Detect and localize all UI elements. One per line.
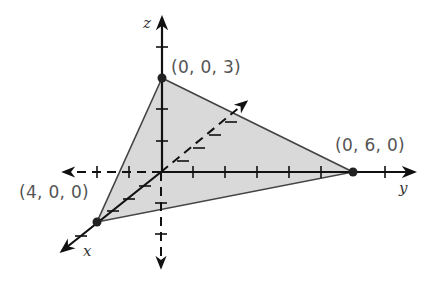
x-axis-label: x bbox=[83, 242, 91, 260]
z-axis-label: z bbox=[143, 14, 151, 32]
point-label-z-intercept: (0, 0, 3) bbox=[171, 57, 241, 77]
point-label-y-intercept: (0, 6, 0) bbox=[335, 135, 405, 155]
point-z-intercept bbox=[158, 74, 167, 83]
point-label-x-intercept: (4, 0, 0) bbox=[19, 182, 89, 202]
point-y-intercept bbox=[349, 168, 358, 177]
diagram-3d-plane: z y x (0, 0, 3) (0, 6, 0) (4, 0, 0) bbox=[0, 0, 424, 287]
plane-triangle bbox=[97, 78, 353, 222]
y-axis-label: y bbox=[399, 179, 407, 197]
point-x-intercept bbox=[93, 218, 102, 227]
